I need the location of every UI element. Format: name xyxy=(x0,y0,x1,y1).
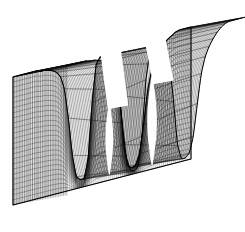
plot-background xyxy=(0,0,245,232)
surface-mesh-svg xyxy=(0,0,245,232)
wireframe-surface-plot xyxy=(0,0,245,232)
